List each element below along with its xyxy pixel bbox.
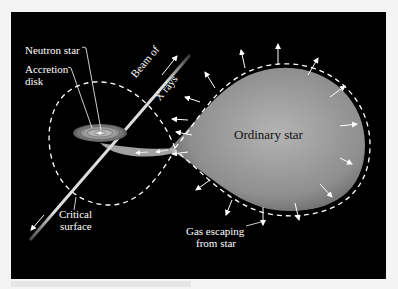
label-neutron-star: Neutron star: [25, 44, 80, 56]
label-critical-1: Critical: [59, 208, 92, 220]
label-ordinary-star: Ordinary star: [234, 127, 303, 143]
label-gas-2: from star: [196, 237, 236, 249]
label-critical-2: surface: [60, 220, 92, 232]
caption-strip: [11, 281, 191, 287]
label-accretion-disk-2: disk: [25, 75, 43, 87]
label-gas-1: Gas escaping: [186, 225, 244, 237]
label-accretion-disk-1: Accretion: [25, 63, 68, 75]
neutron-star: [99, 132, 102, 135]
